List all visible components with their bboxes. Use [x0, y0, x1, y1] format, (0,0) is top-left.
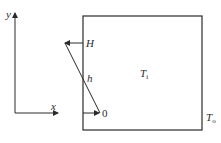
label-zero: 0 — [102, 107, 108, 119]
y-axis-label: y — [5, 8, 11, 20]
label-h: h — [87, 72, 93, 84]
label-T-inside-sub: i — [146, 73, 148, 81]
diagram-canvas: y x H h 0 Ti To — [0, 0, 221, 143]
coordinate-axes: y x — [5, 8, 58, 113]
x-axis-label: x — [50, 100, 56, 112]
label-T-inside: Ti — [140, 67, 148, 81]
temperature-labels: Ti To — [140, 67, 216, 125]
label-T-outside: To — [206, 111, 216, 125]
label-H: H — [85, 37, 95, 49]
label-T-outside-sub: o — [212, 117, 216, 125]
profile: H h 0 — [65, 37, 108, 119]
